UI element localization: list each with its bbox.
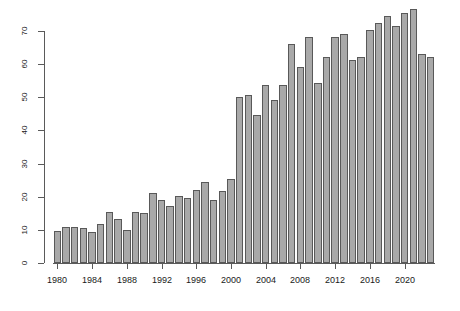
y-axis-tick xyxy=(38,197,44,198)
x-axis-tick xyxy=(196,264,197,269)
y-axis-tick xyxy=(38,130,44,131)
bar xyxy=(236,97,243,263)
bar xyxy=(193,190,200,263)
bar xyxy=(375,23,382,263)
x-axis-tick xyxy=(370,264,371,269)
bar xyxy=(166,206,173,263)
bar xyxy=(210,200,217,263)
x-axis-tick xyxy=(57,264,58,269)
x-axis-tick-label: 2016 xyxy=(352,275,388,285)
x-axis-tick xyxy=(266,264,267,269)
bar xyxy=(262,85,269,263)
x-axis-tick xyxy=(127,264,128,269)
x-axis-tick-label: 2004 xyxy=(248,275,284,285)
bar xyxy=(253,115,260,263)
bar xyxy=(279,85,286,263)
bar xyxy=(219,191,226,263)
y-axis-tick xyxy=(38,164,44,165)
y-axis-tick-label: 30 xyxy=(14,158,36,170)
y-axis-tick-label: 0 xyxy=(14,257,36,269)
bar xyxy=(201,182,208,263)
x-axis-tick-label: 2008 xyxy=(282,275,318,285)
y-axis-tick-label-text: 30 xyxy=(19,153,31,175)
x-axis-tick xyxy=(92,264,93,269)
y-axis-tick-label-text: 0 xyxy=(19,252,31,274)
bar xyxy=(297,67,304,263)
x-axis-tick-label: 1980 xyxy=(39,275,75,285)
bar xyxy=(71,227,78,263)
y-axis-tick-label: 10 xyxy=(14,224,36,236)
y-axis-tick-label-text: 70 xyxy=(19,20,31,42)
bar xyxy=(401,13,408,263)
bar xyxy=(54,231,61,263)
y-axis-tick xyxy=(38,263,44,264)
x-axis-tick-label: 2020 xyxy=(387,275,423,285)
x-axis-tick xyxy=(405,264,406,269)
bar xyxy=(140,213,147,263)
bar xyxy=(384,16,391,263)
bar xyxy=(97,224,104,263)
bar xyxy=(331,37,338,263)
y-axis-tick-label: 40 xyxy=(14,124,36,136)
x-axis-tick-label: 1988 xyxy=(109,275,145,285)
y-axis-tick-label: 70 xyxy=(14,25,36,37)
x-axis-tick-label: 2000 xyxy=(213,275,249,285)
y-axis-tick xyxy=(38,64,44,65)
bar xyxy=(132,212,139,263)
x-axis-tick xyxy=(300,264,301,269)
bar xyxy=(288,44,295,263)
bar xyxy=(80,228,87,263)
x-axis-tick xyxy=(335,264,336,269)
y-axis-tick-label-text: 20 xyxy=(19,186,31,208)
x-axis-tick xyxy=(231,264,232,269)
x-axis-tick xyxy=(162,264,163,269)
bar xyxy=(245,95,252,263)
x-axis-tick-label: 1992 xyxy=(144,275,180,285)
bar xyxy=(349,60,356,263)
y-axis-tick xyxy=(38,230,44,231)
bar xyxy=(271,100,278,263)
y-axis-tick-label: 60 xyxy=(14,58,36,70)
bar xyxy=(158,200,165,263)
bar xyxy=(427,57,434,263)
bar xyxy=(106,212,113,263)
bar xyxy=(314,83,321,263)
y-axis-tick-label-text: 60 xyxy=(19,53,31,75)
bar-chart: 010203040506070 198019841988199219962000… xyxy=(0,0,460,311)
bar xyxy=(357,57,364,263)
bar xyxy=(175,196,182,263)
y-axis-tick xyxy=(38,31,44,32)
bar xyxy=(418,54,425,263)
y-axis-tick-label-text: 10 xyxy=(19,219,31,241)
x-axis-tick-label: 2012 xyxy=(317,275,353,285)
bar xyxy=(340,34,347,263)
y-axis-tick-label-text: 40 xyxy=(19,119,31,141)
y-axis-tick-label: 20 xyxy=(14,191,36,203)
y-axis-tick-label: 50 xyxy=(14,91,36,103)
x-axis-tick-label: 1984 xyxy=(74,275,110,285)
bar xyxy=(305,37,312,263)
x-axis-tick-label: 1996 xyxy=(178,275,214,285)
y-axis-line xyxy=(44,31,45,263)
bar xyxy=(123,230,130,263)
plot-area xyxy=(53,10,435,263)
bar xyxy=(149,193,156,263)
bar xyxy=(227,179,234,263)
bar xyxy=(410,9,417,263)
y-axis-tick-label-text: 50 xyxy=(19,86,31,108)
bar xyxy=(392,26,399,263)
x-axis-line xyxy=(53,263,435,264)
bar xyxy=(184,198,191,263)
y-axis-tick xyxy=(38,97,44,98)
bar xyxy=(88,232,95,263)
bar xyxy=(114,219,121,263)
bar xyxy=(323,57,330,263)
bar xyxy=(366,30,373,263)
bar xyxy=(62,227,69,263)
